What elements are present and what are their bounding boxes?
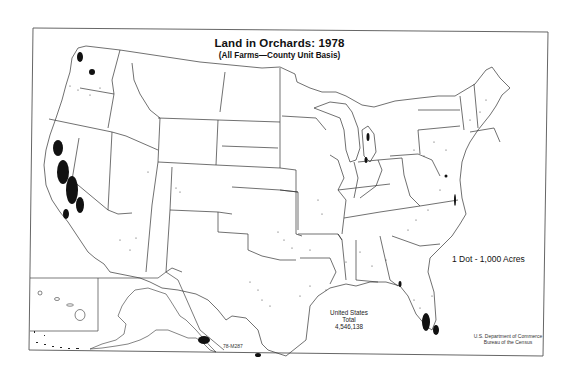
credit-line-bureau: Bureau of the Census <box>470 339 546 345</box>
map-subtitle: (All Farms—County Unit Basis) <box>0 51 567 60</box>
figure-code: 78-M287 <box>223 343 243 349</box>
total-value: 4,546,138 <box>318 323 380 330</box>
source-credit: U.S. Department of Commerce Bureau of th… <box>470 333 546 345</box>
total-line-label: Total <box>318 316 380 323</box>
dot-scale-legend: 1 Dot - 1,000 Acres <box>452 254 525 264</box>
map-title: Land in Orchards: 1978 <box>0 37 567 49</box>
total-line-country: United States <box>318 309 380 316</box>
map-frame <box>29 28 548 356</box>
us-total-label: United States Total 4,546,138 <box>318 309 380 330</box>
